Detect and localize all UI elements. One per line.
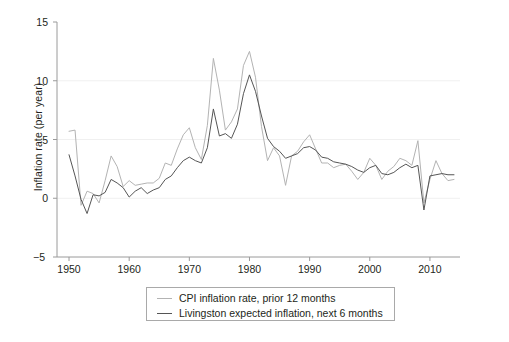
y-tick-label: −5 xyxy=(5,252,45,263)
x-tick-label: 1970 xyxy=(159,264,219,275)
x-tick-label: 1980 xyxy=(219,264,279,275)
legend-label-livingston: Livingston expected inflation, next 6 mo… xyxy=(179,308,383,319)
chart-figure: Inflation rate (per year) 15 10 5 0 −5 1… xyxy=(0,0,509,342)
x-tick-label: 1960 xyxy=(99,264,159,275)
x-tick-label: 2010 xyxy=(400,264,460,275)
x-tick-label: 2000 xyxy=(340,264,400,275)
y-tick-label: 10 xyxy=(8,76,48,87)
plot-area xyxy=(57,22,460,257)
y-tick-label: 5 xyxy=(8,135,48,146)
legend-line-swatch-livingston xyxy=(157,313,172,314)
legend-line-swatch-cpi xyxy=(157,298,172,299)
axis-ticks xyxy=(53,22,430,261)
legend-label-cpi: CPI inflation rate, prior 12 months xyxy=(179,293,335,304)
data-series xyxy=(69,51,454,213)
y-axis-tick-labels: 15 10 5 0 −5 xyxy=(0,0,57,342)
x-tick-label: 1950 xyxy=(39,264,99,275)
chart-canvas xyxy=(57,22,460,257)
y-tick-label: 15 xyxy=(8,17,48,28)
y-tick-label: 0 xyxy=(8,193,48,204)
legend-item-livingston: Livingston expected inflation, next 6 mo… xyxy=(157,307,394,320)
x-tick-label: 1990 xyxy=(280,264,340,275)
chart-legend: CPI inflation rate, prior 12 months Livi… xyxy=(146,287,395,321)
legend-item-cpi: CPI inflation rate, prior 12 months xyxy=(157,292,394,305)
